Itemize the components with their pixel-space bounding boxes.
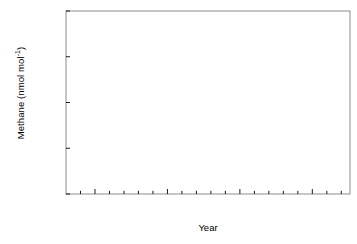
plot-canvas (0, 0, 357, 244)
plot-frame (66, 11, 350, 194)
x-axis-ticks (80, 189, 341, 194)
methane-time-series-chart: Methane (nmol mol-1) Year (0, 0, 357, 244)
